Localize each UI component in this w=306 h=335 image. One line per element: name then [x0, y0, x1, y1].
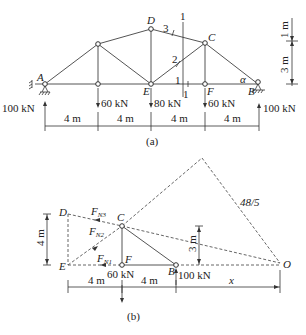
figure-a: A D C E F B 1 1 1 2 3 α 100 kN 60 kN 80 …: [2, 10, 298, 148]
load-80kn: 80 kN: [154, 97, 181, 109]
section-label-mid: 1: [175, 74, 181, 86]
label-f-b: F: [124, 253, 132, 265]
node-top-1: [96, 42, 101, 47]
figure-b: D C E F B O FN3 FN2 FN1 48/5 60 kN 100 k…: [34, 158, 291, 323]
span-4: 4 m: [224, 112, 241, 124]
member-d-c: [151, 29, 205, 43]
node-b: [256, 80, 261, 85]
node-bottom-1: [96, 82, 101, 87]
member-c-b: [205, 43, 258, 84]
label-c-b: C: [117, 211, 125, 223]
label-o: O: [283, 258, 291, 270]
label-d: D: [146, 14, 155, 26]
span-1: 4 m: [64, 112, 81, 124]
label-c: C: [208, 31, 216, 43]
truss-diagram: A D C E F B 1 1 1 2 3 α 100 kN 60 kN 80 …: [0, 0, 306, 335]
label-arm: 48/5: [240, 196, 260, 208]
load-f-b: 60 kN: [107, 268, 134, 280]
member-label-2: 2: [172, 53, 178, 65]
label-b: B: [248, 85, 255, 97]
load-f-arrow: [120, 298, 124, 303]
diagonal-top-e: [98, 44, 151, 84]
label-b-b: B: [168, 265, 175, 277]
span-2: 4 m: [117, 112, 134, 124]
angle-alpha: α: [240, 73, 246, 85]
load-60kn-2: 60 kN: [208, 97, 235, 109]
member-a-top: [45, 44, 98, 84]
node-c-b: [120, 224, 125, 229]
label-e: E: [142, 85, 150, 97]
height-1m: 1 m: [278, 21, 290, 38]
reaction-b-b: 100 kN: [178, 269, 211, 281]
member-top-d: [98, 29, 151, 44]
span-1-b: 4 m: [88, 274, 105, 286]
member-label-3: 3: [163, 22, 169, 34]
load-60kn-1: 60 kN: [101, 97, 128, 109]
span-x: x: [228, 274, 234, 286]
height-3m-b: 3 m: [186, 235, 198, 252]
section-label-top: 1: [180, 10, 186, 22]
span-2-b: 4 m: [141, 274, 158, 286]
dashed-c-apex: [122, 158, 202, 226]
label-fn1: FN1: [96, 252, 112, 266]
label-fn3: FN3: [90, 205, 106, 219]
dashed-apex-o: [202, 158, 280, 263]
node-f-b: [120, 263, 125, 268]
label-fn2: FN2: [88, 225, 104, 239]
label-a: A: [36, 71, 44, 83]
caption-a: (a): [146, 135, 159, 148]
label-e-b: E: [58, 260, 66, 272]
caption-b: (b): [127, 310, 140, 323]
height-4m-b: 4 m: [34, 229, 46, 246]
node-c: [203, 41, 208, 46]
load-left-reaction: 100 kN: [2, 102, 35, 114]
load-right-reaction: 100 kN: [263, 102, 296, 114]
height-3m: 3 m: [278, 56, 290, 73]
label-d-b: D: [58, 206, 67, 218]
node-d: [149, 27, 154, 32]
span-3: 4 m: [171, 112, 188, 124]
label-f: F: [206, 85, 214, 97]
section-label-bottom: 1: [183, 88, 189, 100]
